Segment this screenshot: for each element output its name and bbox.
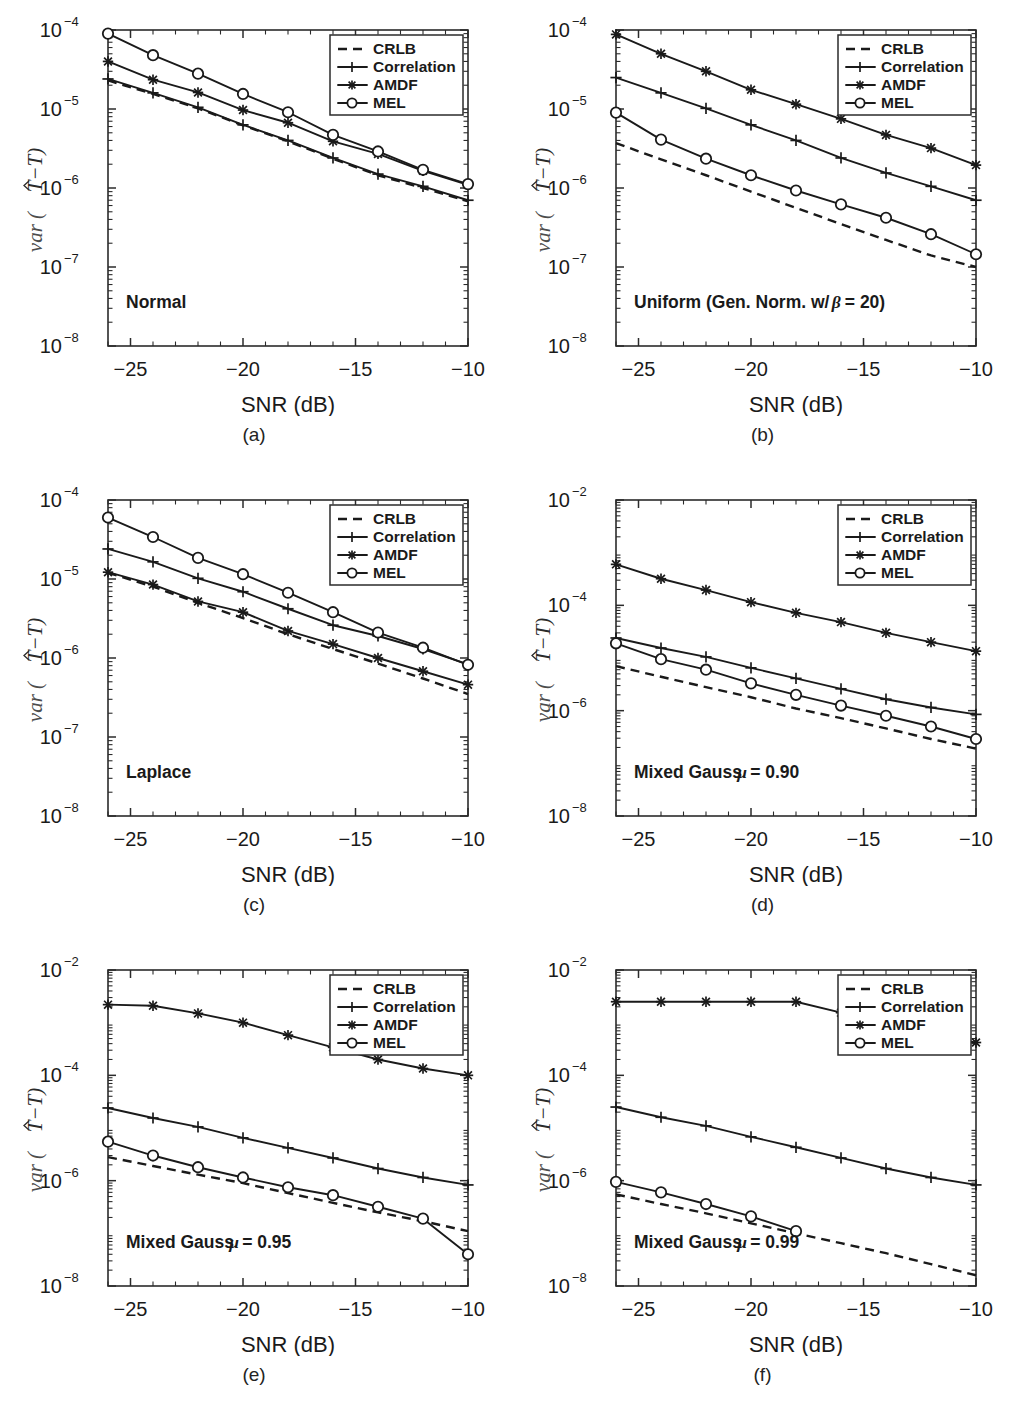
data-point — [148, 74, 158, 84]
x-tick-label: −25 — [622, 1298, 656, 1320]
legend-label-crlb: CRLB — [373, 40, 416, 57]
data-point — [881, 628, 891, 638]
data-point — [836, 199, 846, 209]
svg-text:−8: −8 — [572, 800, 587, 815]
data-point — [655, 642, 666, 653]
svg-text:var (: var ( — [23, 1150, 47, 1192]
legend: CRLBCorrelationAMDFMEL — [838, 505, 971, 585]
svg-text:−5: −5 — [572, 93, 587, 108]
y-tick-label: 10−4 — [548, 589, 587, 616]
svg-text:10: 10 — [40, 726, 62, 748]
data-point — [701, 585, 711, 595]
data-point — [463, 179, 473, 189]
data-point — [791, 185, 801, 195]
data-point — [238, 89, 248, 99]
legend-label-amdf: AMDF — [881, 546, 926, 563]
data-point — [701, 997, 711, 1007]
legend-label-correlation: Correlation — [373, 528, 456, 545]
svg-text:−4: −4 — [64, 484, 79, 499]
legend-label-mel: MEL — [373, 564, 406, 581]
x-tick-label: −15 — [847, 1298, 881, 1320]
svg-text:var (: var ( — [23, 210, 47, 252]
svg-text:= 0.99: = 0.99 — [750, 1232, 799, 1252]
data-point — [193, 87, 203, 97]
y-axis-title: var (T−T) — [23, 1088, 47, 1192]
svg-text:−4: −4 — [64, 14, 79, 29]
data-point — [656, 49, 666, 59]
x-tick-label: −20 — [226, 358, 260, 380]
x-tick-label: −20 — [734, 828, 768, 850]
data-point — [971, 646, 981, 656]
data-point — [238, 569, 248, 579]
legend-label-crlb: CRLB — [881, 510, 924, 527]
y-tick-label: 10−8 — [548, 800, 587, 827]
data-point — [926, 637, 936, 647]
x-tick-label: −10 — [959, 828, 993, 850]
plot-area-d: 10−810−610−410−2−25−20−15−10SNR (dB)var … — [524, 476, 1017, 946]
data-point — [147, 87, 158, 98]
data-point — [790, 1142, 801, 1153]
legend-label-amdf: AMDF — [881, 1016, 926, 1033]
plot-area-b: 10−810−710−610−510−4−25−20−15−10SNR (dB)… — [524, 6, 1017, 476]
data-point — [372, 168, 383, 179]
data-point — [836, 700, 846, 710]
data-point — [238, 105, 248, 115]
svg-text:−4: −4 — [572, 14, 587, 29]
data-point — [237, 119, 248, 130]
legend: CRLBCorrelationAMDFMEL — [838, 975, 971, 1055]
data-point — [328, 1190, 338, 1200]
legend-label-mel: MEL — [373, 1034, 406, 1051]
data-point — [700, 1120, 711, 1131]
svg-text:−8: −8 — [572, 330, 587, 345]
data-point — [102, 73, 113, 84]
data-point — [283, 1030, 293, 1040]
svg-text:−6: −6 — [572, 1165, 587, 1180]
svg-text:10: 10 — [548, 805, 570, 827]
svg-text:−2: −2 — [64, 954, 79, 969]
panel-annotation: Mixed Gauss μ = 0.95 — [126, 1232, 292, 1252]
y-axis-title: var (T−T) — [531, 618, 555, 722]
legend-label-amdf: AMDF — [373, 1016, 418, 1033]
x-axis-title: SNR (dB) — [749, 1332, 843, 1356]
data-point — [791, 99, 801, 109]
x-tick-label: −10 — [451, 828, 485, 850]
data-point — [656, 574, 666, 584]
svg-text:10: 10 — [40, 256, 62, 278]
legend-label-correlation: Correlation — [881, 998, 964, 1015]
x-tick-label: −20 — [734, 358, 768, 380]
x-axis-title: SNR (dB) — [241, 862, 335, 886]
svg-text:μ: μ — [736, 1232, 747, 1252]
plot-d: 10−810−610−410−2−25−20−15−10SNR (dB)var … — [524, 476, 994, 886]
x-axis-title: SNR (dB) — [241, 1332, 335, 1356]
x-tick-label: −10 — [959, 1298, 993, 1320]
data-point — [746, 1211, 756, 1221]
svg-text:−6: −6 — [64, 172, 79, 187]
svg-text:10: 10 — [40, 19, 62, 41]
svg-text:−7: −7 — [64, 721, 79, 736]
x-tick-label: −10 — [959, 358, 993, 380]
data-point — [790, 135, 801, 146]
data-point — [373, 653, 383, 663]
plot-area-f: 10−810−610−410−2−25−20−15−10SNR (dB)var … — [524, 946, 1017, 1408]
data-point — [373, 146, 383, 156]
data-point — [836, 617, 846, 627]
svg-text:−8: −8 — [64, 1270, 79, 1285]
y-axis-title: var (T−T) — [23, 148, 47, 252]
data-point — [656, 654, 666, 664]
svg-text:−6: −6 — [64, 642, 79, 657]
data-point — [835, 152, 846, 163]
svg-text:10: 10 — [548, 1064, 570, 1086]
y-tick-label: 10−7 — [40, 721, 79, 748]
plot-area-c: 10−810−710−610−510−4−25−20−15−10SNR (dB)… — [16, 476, 524, 946]
x-tick-label: −10 — [451, 1298, 485, 1320]
svg-text:10: 10 — [40, 1064, 62, 1086]
data-point — [880, 694, 891, 705]
data-point — [701, 153, 711, 163]
svg-text:μ: μ — [736, 762, 747, 782]
x-axis-title: SNR (dB) — [749, 392, 843, 416]
data-point — [237, 1132, 248, 1143]
data-point — [148, 1000, 158, 1010]
data-point — [791, 997, 801, 1007]
svg-text:−7: −7 — [64, 251, 79, 266]
y-tick-label: 10−7 — [40, 251, 79, 278]
